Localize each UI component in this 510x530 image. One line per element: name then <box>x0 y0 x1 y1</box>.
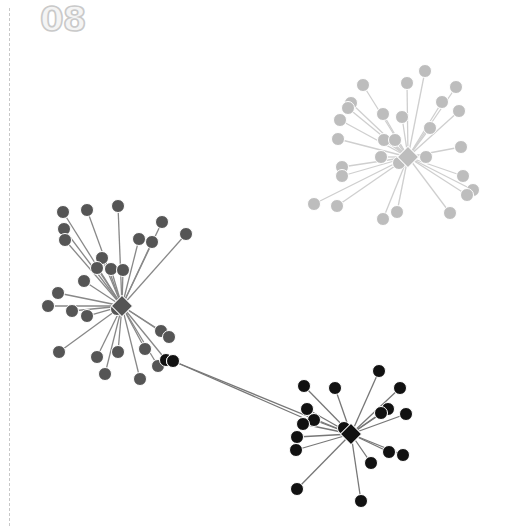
graph-node[interactable] <box>139 343 152 356</box>
graph-node[interactable] <box>377 213 390 226</box>
graph-node[interactable] <box>377 108 390 121</box>
graph-node[interactable] <box>112 346 125 359</box>
edge <box>118 206 122 306</box>
graph-node[interactable] <box>375 407 388 420</box>
graph-node[interactable] <box>375 151 388 164</box>
graph-node[interactable] <box>291 431 304 444</box>
graph-node[interactable] <box>389 134 402 147</box>
graph-node[interactable] <box>134 373 147 386</box>
graph-node[interactable] <box>357 79 370 92</box>
graph-node[interactable] <box>59 234 72 247</box>
graph-node[interactable] <box>105 263 118 276</box>
graph-node[interactable] <box>290 444 303 457</box>
graph-node[interactable] <box>383 446 396 459</box>
graph-node[interactable] <box>401 77 414 90</box>
bridge-node[interactable] <box>167 355 180 368</box>
graph-node[interactable] <box>391 206 404 219</box>
graph-node[interactable] <box>57 206 70 219</box>
network-graph <box>0 0 510 530</box>
graph-node[interactable] <box>156 216 169 229</box>
graph-node[interactable] <box>455 141 468 154</box>
edge <box>351 434 361 501</box>
graph-node[interactable] <box>78 275 91 288</box>
graph-node[interactable] <box>52 287 65 300</box>
graph-node[interactable] <box>436 96 449 109</box>
graph-node[interactable] <box>396 111 409 124</box>
graph-node[interactable] <box>420 151 433 164</box>
graph-node[interactable] <box>91 262 104 275</box>
graph-node[interactable] <box>53 346 66 359</box>
graph-node[interactable] <box>180 228 193 241</box>
graph-node[interactable] <box>342 102 355 115</box>
graph-node[interactable] <box>450 81 463 94</box>
graph-node[interactable] <box>308 198 321 211</box>
graph-node[interactable] <box>298 380 311 393</box>
graph-node[interactable] <box>457 170 470 183</box>
graph-node[interactable] <box>332 133 345 146</box>
graph-node[interactable] <box>424 122 437 135</box>
graph-node[interactable] <box>99 368 112 381</box>
graph-node[interactable] <box>355 495 368 508</box>
graph-node[interactable] <box>291 483 304 496</box>
graph-node[interactable] <box>42 300 55 313</box>
graph-node[interactable] <box>336 170 349 183</box>
graph-node[interactable] <box>81 204 94 217</box>
graph-node[interactable] <box>461 189 474 202</box>
graph-node[interactable] <box>133 233 146 246</box>
edge <box>408 157 450 213</box>
edges-layer <box>48 71 473 501</box>
graph-node[interactable] <box>419 65 432 78</box>
graph-node[interactable] <box>146 236 159 249</box>
graph-node[interactable] <box>400 408 413 421</box>
graph-node[interactable] <box>329 382 342 395</box>
graph-node[interactable] <box>163 331 176 344</box>
graph-node[interactable] <box>117 264 130 277</box>
graph-node[interactable] <box>112 200 125 213</box>
edge <box>122 306 158 366</box>
graph-node[interactable] <box>365 457 378 470</box>
graph-node[interactable] <box>334 114 347 127</box>
graph-node[interactable] <box>331 200 344 213</box>
graph-node[interactable] <box>397 449 410 462</box>
graph-node[interactable] <box>81 310 94 323</box>
graph-node[interactable] <box>91 351 104 364</box>
edge <box>173 361 351 434</box>
graph-node[interactable] <box>394 382 407 395</box>
graph-node[interactable] <box>297 418 310 431</box>
graph-node[interactable] <box>453 105 466 118</box>
graph-node[interactable] <box>66 305 79 318</box>
hubs-layer <box>111 146 418 444</box>
graph-node[interactable] <box>373 365 386 378</box>
graph-node[interactable] <box>444 207 457 220</box>
